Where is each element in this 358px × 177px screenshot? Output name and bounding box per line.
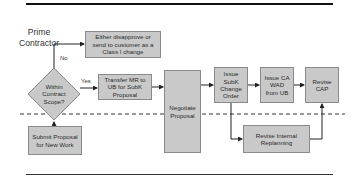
revise-cap-box: Revise CAP [305, 67, 339, 103]
no-label: No [60, 55, 68, 61]
submit-box: Submit Proposal for New Work [28, 126, 82, 155]
wad-box: Issue CA WAD from UB [260, 67, 294, 103]
decision-label: Within Contract Scope? [36, 83, 72, 105]
reject-box: Either disapprove or send to customer as… [85, 31, 161, 58]
transfer-box: Transfer MR to UB for SubK Proposal [98, 74, 152, 100]
yes-label: Yes [81, 78, 91, 84]
change-order-box: Issue SubK Change Order [214, 67, 248, 103]
negotiate-box: Negotiate Proposal [164, 70, 201, 153]
replanning-box: Revise Internal Replanning [243, 125, 310, 153]
